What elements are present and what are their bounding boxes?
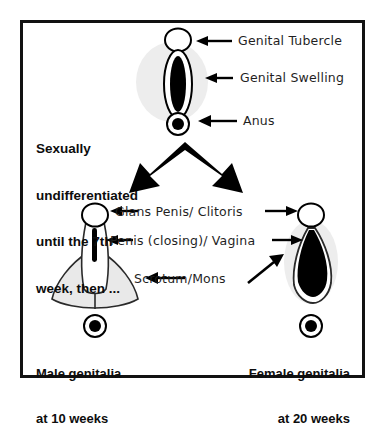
label-scrotum-mons: Scrotum/Mons: [134, 271, 226, 286]
arrow-genital-swelling: [205, 73, 233, 83]
note-line-1: Sexually: [36, 141, 161, 157]
genital-swelling-inner: [170, 56, 186, 112]
label-genital-tubercle: Genital Tubercle: [238, 33, 342, 48]
male-caption-line-1: Male genitalia: [36, 366, 176, 381]
arrow-anus: [198, 115, 237, 127]
female-caption: Female genitalia at 20 weeks: [205, 336, 350, 427]
female-caption-line-1: Female genitalia: [205, 366, 350, 381]
label-anus: Anus: [243, 113, 275, 128]
label-penis-vagina: Penis (closing)/ Vagina: [110, 233, 255, 248]
anus-dot-undifferentiated: [172, 118, 184, 130]
anus-dot-female: [305, 320, 317, 332]
female-caption-line-2: at 20 weeks: [205, 411, 350, 426]
genital-tubercle-shape: [165, 29, 191, 52]
label-glans-penis-clitoris: Glans Penis/ Clitoris: [115, 204, 243, 219]
arrow-glans-right: [265, 206, 298, 216]
note-line-2: undifferentiated: [36, 188, 161, 204]
label-genital-swelling: Genital Swelling: [240, 70, 344, 85]
clitoris-shape: [298, 204, 324, 227]
male-caption-line-2: at 10 weeks: [36, 411, 176, 426]
female-figure: [284, 204, 338, 338]
arrow-mons-diagonal: [248, 254, 284, 283]
male-caption: Male genitalia at 10 weeks: [36, 336, 176, 427]
arrow-genital-tubercle: [196, 36, 232, 46]
